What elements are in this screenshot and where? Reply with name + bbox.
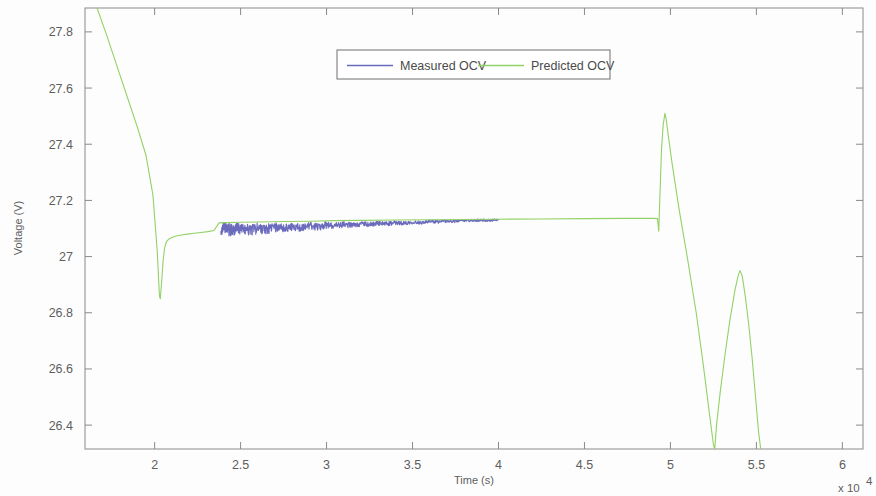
- y-tick-label: 26.6: [49, 362, 73, 376]
- y-axis-title: Voltage (V): [12, 201, 24, 255]
- legend-label-measured-ocv: Measured OCV: [400, 59, 487, 73]
- x-tick-label: 6: [839, 458, 846, 472]
- x-tick-label: 2.5: [232, 458, 249, 472]
- y-tick-label: 26.8: [49, 306, 73, 320]
- x-axis-title: Time (s): [454, 474, 494, 486]
- x-tick-label: 2: [151, 458, 158, 472]
- chart-figure: 27.827.627.427.22726.826.626.4 22.533.54…: [0, 0, 876, 496]
- y-tick-label: 26.4: [49, 419, 73, 433]
- y-tick-label: 27: [59, 250, 73, 264]
- chart-legend: Measured OCV Predicted OCV: [337, 50, 615, 79]
- chart-canvas: 27.827.627.427.22726.826.626.4 22.533.54…: [0, 0, 876, 496]
- x-tick-label: 3: [323, 458, 330, 472]
- x-axis-multiplier-exponent: 4: [866, 475, 873, 487]
- x-tick-label: 5: [667, 458, 674, 472]
- x-tick-label: 4.5: [576, 458, 593, 472]
- x-tick-label: 5.5: [748, 458, 765, 472]
- y-tick-label: 27.2: [49, 194, 73, 208]
- x-tick-label: 3.5: [404, 458, 421, 472]
- x-axis-multiplier: x 10: [838, 482, 860, 494]
- x-tick-label: 4: [495, 458, 502, 472]
- y-tick-label: 27.6: [49, 82, 73, 96]
- y-tick-label: 27.4: [49, 138, 73, 152]
- series-tail-predicted-ocv: [715, 449, 716, 481]
- legend-label-predicted-ocv: Predicted OCV: [531, 59, 615, 73]
- y-tick-label: 27.8: [49, 25, 73, 39]
- y-axis-ticks: 27.827.627.427.22726.826.626.4: [49, 25, 863, 432]
